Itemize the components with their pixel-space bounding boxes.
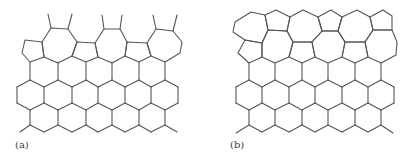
pentagon-ring bbox=[370, 10, 392, 30]
heptagon-ring bbox=[42, 28, 77, 63]
heptagon-ring bbox=[262, 30, 293, 63]
pentagon-ring bbox=[238, 40, 262, 63]
pentagon-ring bbox=[342, 42, 368, 63]
panel-b-label: (b) bbox=[230, 139, 244, 150]
panel-a-lattice bbox=[17, 14, 182, 132]
lattice-figure bbox=[0, 0, 415, 161]
pentagon-ring bbox=[72, 42, 98, 62]
heptagon-ring bbox=[312, 31, 345, 63]
panel-a-label: (a) bbox=[15, 139, 29, 150]
heptagon-ring bbox=[365, 30, 397, 63]
heptagon-ring bbox=[233, 12, 268, 43]
heptagon-ring bbox=[147, 29, 182, 62]
pentagon-ring bbox=[289, 42, 315, 63]
pentagon-ring bbox=[22, 40, 44, 62]
panel-b-lattice bbox=[233, 10, 397, 133]
pentagon-ring bbox=[265, 10, 290, 31]
heptagon-ring bbox=[95, 29, 127, 63]
